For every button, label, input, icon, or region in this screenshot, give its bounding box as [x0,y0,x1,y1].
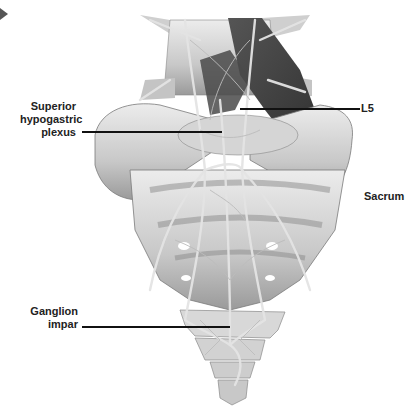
label-line: hypogastric [20,113,76,126]
sacrum-illustration [0,0,414,418]
leader-line-ganglion-impar [82,326,230,328]
label-sacrum: Sacrum [364,190,404,203]
label-ganglion-impar: Ganglion impar [20,305,78,331]
leader-line-l5 [240,108,360,110]
leader-line-superior-hypogastric-plexus [82,131,222,133]
anatomy-figure: Superior hypogastric plexus L5 Sacrum Ga… [0,0,414,418]
label-line: impar [20,318,78,331]
label-line: Superior [20,100,76,113]
label-line: plexus [20,126,76,139]
label-superior-hypogastric-plexus: Superior hypogastric plexus [20,100,76,139]
label-l5: L5 [361,102,374,115]
label-line: Ganglion [20,305,78,318]
